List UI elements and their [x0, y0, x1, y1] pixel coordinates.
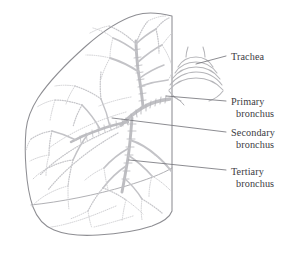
leader-secondary: [112, 118, 226, 132]
lung-diagram-figure: .outline { fill: none; stroke: #8e8e93; …: [0, 0, 288, 255]
label-secondary-line1: Secondary: [231, 127, 275, 138]
bronchial-tree: [26, 16, 172, 228]
label-primary-line2: bronchus: [231, 108, 274, 120]
trachea-cartilage-rings: [169, 47, 223, 101]
label-trachea[interactable]: Trachea: [231, 51, 264, 63]
label-tertiary-line2: bronchus: [231, 178, 274, 190]
label-primary-line1: Primary: [231, 96, 265, 107]
label-primary-bronchus[interactable]: Primary bronchus: [231, 96, 274, 119]
leader-tertiary: [129, 160, 226, 170]
label-tertiary-bronchus[interactable]: Tertiary bronchus: [231, 166, 274, 189]
peripheral-branches: [26, 16, 172, 228]
label-secondary-bronchus[interactable]: Secondary bronchus: [231, 127, 275, 150]
label-tertiary-line1: Tertiary: [231, 166, 264, 177]
label-trachea-line1: Trachea: [231, 51, 264, 62]
label-secondary-line2: bronchus: [231, 139, 275, 151]
